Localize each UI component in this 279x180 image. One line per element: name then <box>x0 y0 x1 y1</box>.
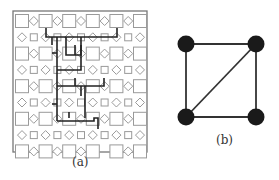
diamond <box>29 114 38 123</box>
diamond <box>29 147 38 156</box>
diamond <box>88 131 97 140</box>
small-square <box>125 132 132 139</box>
diamond <box>29 17 38 26</box>
large-square <box>39 15 52 28</box>
large-square <box>110 112 123 125</box>
graph-node-bl <box>178 109 195 126</box>
small-square <box>30 99 37 106</box>
diamond <box>100 49 109 58</box>
small-square <box>125 34 132 41</box>
panel-b-graph <box>178 36 265 126</box>
small-square <box>125 99 132 106</box>
large-square <box>39 145 52 158</box>
large-square <box>39 80 52 93</box>
small-square <box>78 99 85 106</box>
small-square <box>54 132 61 139</box>
large-square <box>63 15 76 28</box>
large-square <box>39 112 52 125</box>
small-square <box>30 66 37 73</box>
diamond <box>41 131 50 140</box>
diamond <box>29 49 38 58</box>
panel-b-caption: (b) <box>216 133 233 147</box>
diamond <box>124 114 133 123</box>
diamond <box>124 17 133 26</box>
diamond <box>65 98 74 107</box>
large-square <box>16 112 29 125</box>
large-square <box>63 47 76 60</box>
small-square <box>101 99 108 106</box>
large-square <box>39 47 52 60</box>
diamond <box>77 17 86 26</box>
large-square <box>110 15 123 28</box>
diamond <box>88 98 97 107</box>
diamond <box>18 98 27 107</box>
graph-edges <box>186 44 256 117</box>
large-square <box>16 80 29 93</box>
small-square <box>101 66 108 73</box>
large-square <box>134 47 147 60</box>
panel-a-grid-layout <box>13 11 147 158</box>
large-square <box>134 80 147 93</box>
diamond <box>112 65 121 74</box>
figure <box>0 0 279 180</box>
panel-a-frame <box>13 11 147 152</box>
diamond <box>65 131 74 140</box>
large-square <box>134 15 147 28</box>
panel-a-caption: (a) <box>72 155 89 169</box>
diamond <box>100 114 109 123</box>
wiring-network <box>46 28 117 129</box>
graph-edge <box>186 44 256 117</box>
small-square <box>30 132 37 139</box>
diamond <box>77 114 86 123</box>
diamond <box>136 65 145 74</box>
large-square <box>86 47 99 60</box>
large-square <box>134 112 147 125</box>
diamond <box>53 147 62 156</box>
diamond <box>124 82 133 91</box>
graph-node-tl <box>178 36 195 53</box>
diamond <box>18 65 27 74</box>
diamond <box>18 131 27 140</box>
small-square <box>125 66 132 73</box>
diamond <box>136 131 145 140</box>
large-square <box>110 80 123 93</box>
large-square <box>16 15 29 28</box>
diamond <box>29 82 38 91</box>
small-square <box>30 34 37 41</box>
large-square <box>86 15 99 28</box>
diamond <box>100 17 109 26</box>
diamond <box>53 17 62 26</box>
diamond <box>18 33 27 42</box>
graph-node-br <box>248 109 265 126</box>
large-square <box>16 145 29 158</box>
small-square <box>78 132 85 139</box>
large-square <box>16 47 29 60</box>
small-square <box>101 132 108 139</box>
graph-node-tr <box>248 36 265 53</box>
diamond <box>124 49 133 58</box>
diamond <box>41 65 50 74</box>
diamond <box>136 98 145 107</box>
diamond <box>124 147 133 156</box>
diamond <box>41 98 50 107</box>
diamond <box>88 65 97 74</box>
diamond <box>112 98 121 107</box>
diamond <box>136 33 145 42</box>
large-square <box>134 145 147 158</box>
diamond <box>112 131 121 140</box>
large-square <box>110 47 123 60</box>
large-square <box>110 145 123 158</box>
